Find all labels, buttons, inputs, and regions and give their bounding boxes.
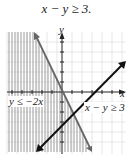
graph bbox=[0, 0, 133, 154]
y-axis-label: y bbox=[59, 24, 64, 35]
region-label-2: x − y ≥ 3 bbox=[84, 102, 126, 113]
region-label-1: y ≤ −2x bbox=[8, 96, 44, 107]
grid bbox=[7, 32, 126, 154]
x-axis-label: x bbox=[120, 88, 125, 99]
shaded-region-1 bbox=[9, 32, 86, 154]
